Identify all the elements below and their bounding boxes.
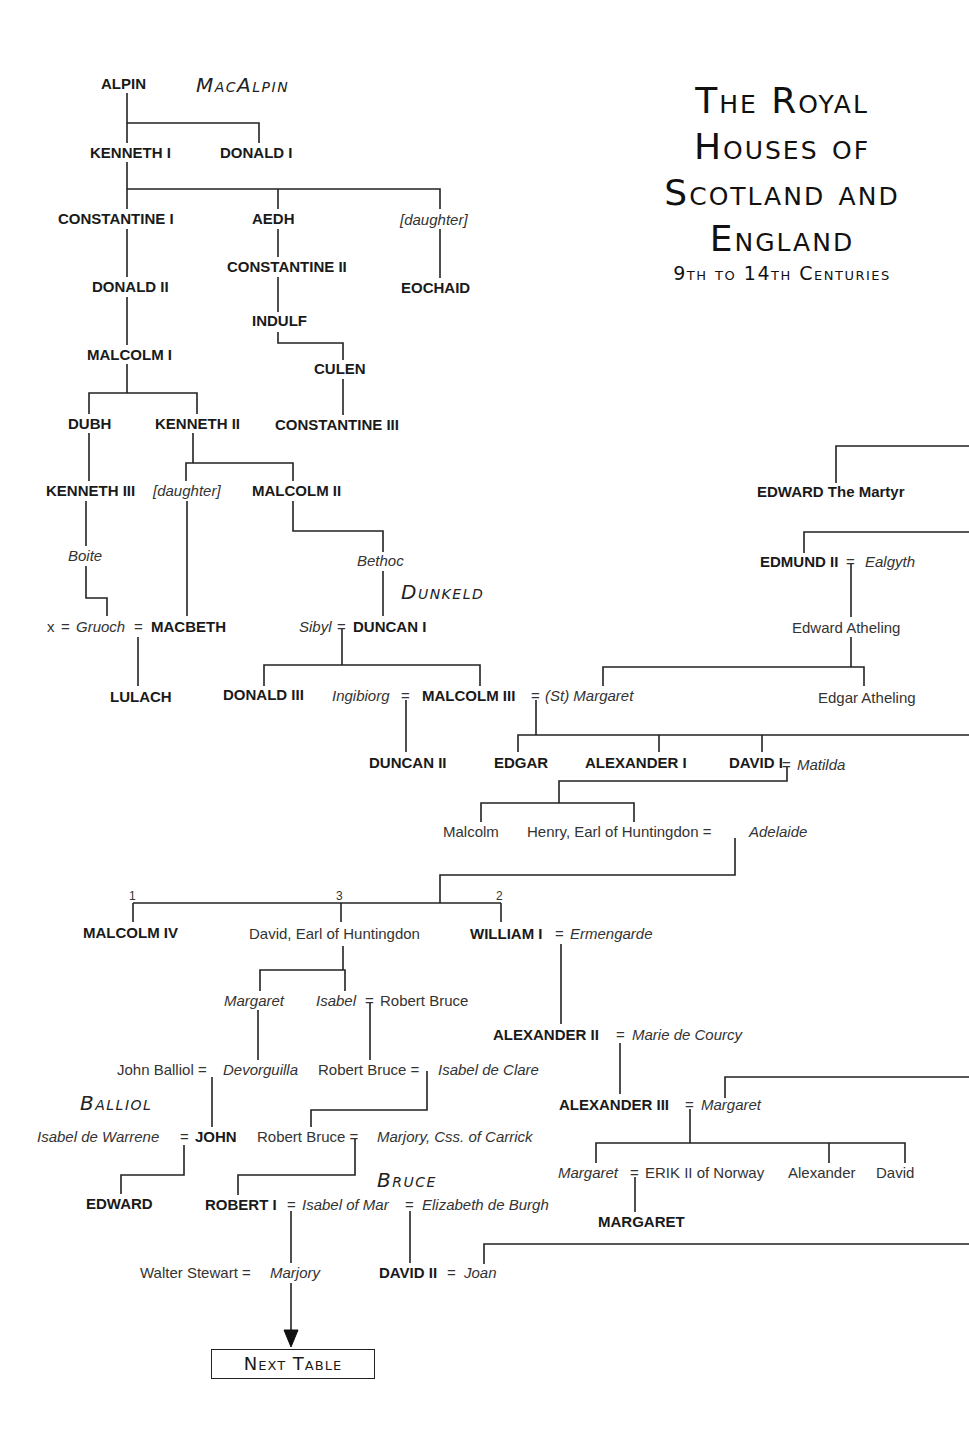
person-donald-ii: DONALD II <box>92 278 169 296</box>
person-edgar: EDGAR <box>494 754 548 772</box>
person-marjory: Marjory <box>270 1264 320 1282</box>
birth-order-2: 2 <box>496 887 503 905</box>
person-constantine-ii: CONSTANTINE II <box>227 258 347 276</box>
person-kenneth-i: KENNETH I <box>90 144 171 162</box>
house-label-macalpin: MacAlpin <box>196 73 289 97</box>
person-robert-bruce-5th: Robert Bruce = <box>318 1061 419 1079</box>
person-edward-balliol: EDWARD <box>86 1195 153 1213</box>
person-ermengarde: Ermengarde <box>570 925 653 943</box>
person-david-earl-of-huntingdon: David, Earl of Huntingdon <box>249 925 420 943</box>
marriage-sign: = <box>287 1196 296 1214</box>
person-ealgyth: Ealgyth <box>865 553 915 571</box>
marriage-sign: = <box>447 1264 456 1282</box>
person-david-i: DAVID I <box>729 754 783 772</box>
birth-order-1: 1 <box>129 887 136 905</box>
person-daughter-kenneth-ii: [daughter] <box>153 482 221 500</box>
house-label-dunkeld: Dunkeld <box>401 580 484 604</box>
person-donald-iii: DONALD III <box>223 686 304 704</box>
person-edgar-atheling: Edgar Atheling <box>818 689 916 707</box>
marriage-sign: = <box>531 687 540 705</box>
person-sibyl: Sibyl <box>299 618 332 636</box>
marriage-sign: = <box>846 553 855 571</box>
person-william-i: WILLIAM I <box>470 925 542 943</box>
marriage-sign: = <box>337 618 346 636</box>
person-alexander-i: ALEXANDER I <box>585 754 687 772</box>
person-john: JOHN <box>195 1128 237 1146</box>
person-culen: CULEN <box>314 360 366 378</box>
marriage-sign: = <box>782 756 791 774</box>
person-david-ii: DAVID II <box>379 1264 437 1282</box>
marriage-sign: = <box>61 618 70 636</box>
person-elizabeth-de-burgh: Elizabeth de Burgh <box>422 1196 549 1214</box>
person-robert-bruce-4th: Robert Bruce <box>380 992 468 1010</box>
title-subtitle: 9th to 14th Centuries <box>612 262 952 284</box>
person-kenneth-ii: KENNETH II <box>155 415 240 433</box>
marriage-sign: = <box>685 1096 694 1114</box>
person-david: David <box>876 1164 914 1182</box>
title-line-4: England <box>612 216 952 262</box>
person-devorguilla: Devorguilla <box>223 1061 298 1079</box>
person-erik-ii-of-norway: ERIK II of Norway <box>645 1164 764 1182</box>
person-alexander: Alexander <box>788 1164 856 1182</box>
house-label-bruce: Bruce <box>377 1168 437 1192</box>
person-gruoch: Gruoch <box>76 618 125 636</box>
person-donald-i: DONALD I <box>220 144 293 162</box>
person-margaret-huntingdon: Margaret <box>224 992 284 1010</box>
person-daughter-alpin: [daughter] <box>400 211 468 229</box>
marriage-sign: = <box>134 618 143 636</box>
title-line-2: Houses of <box>612 124 952 170</box>
marriage-sign: = <box>630 1164 639 1182</box>
person-marie-de-courcy: Marie de Courcy <box>632 1026 742 1044</box>
person-malcolm: Malcolm <box>443 823 499 841</box>
person-malcolm-iv: MALCOLM IV <box>83 924 178 942</box>
person-x: x <box>47 618 55 636</box>
chart-title: The Royal Houses of Scotland and England… <box>612 78 952 284</box>
person-isabel-of-mar: Isabel of Mar <box>302 1196 389 1214</box>
person-duncan-ii: DUNCAN II <box>369 754 447 772</box>
person-bethoc: Bethoc <box>357 552 404 570</box>
person-henry-earl-of-huntingdon: Henry, Earl of Huntingdon = <box>527 823 711 841</box>
marriage-sign: = <box>405 1196 414 1214</box>
person-lulach: LULACH <box>110 688 172 706</box>
person-kenneth-iii: KENNETH III <box>46 482 135 500</box>
person-margaret-alexander-iii-daughter: Margaret <box>558 1164 618 1182</box>
person-edward-atheling: Edward Atheling <box>792 619 900 637</box>
marriage-sign: = <box>616 1026 625 1044</box>
person-aedh: AEDH <box>252 210 295 228</box>
person-malcolm-iii: MALCOLM III <box>422 687 515 705</box>
marriage-sign: = <box>365 992 374 1010</box>
person-isabel-de-clare: Isabel de Clare <box>438 1061 539 1079</box>
house-label-balliol: Balliol <box>80 1091 152 1115</box>
person-alexander-iii: ALEXANDER III <box>559 1096 669 1114</box>
person-adelaide: Adelaide <box>749 823 807 841</box>
person-joan: Joan <box>464 1264 497 1282</box>
person-isabel-de-warrene: Isabel de Warrene <box>37 1128 159 1146</box>
person-malcolm-ii: MALCOLM II <box>252 482 341 500</box>
person-walter-stewart: Walter Stewart = <box>140 1264 251 1282</box>
person-constantine-iii: CONSTANTINE III <box>275 416 399 434</box>
person-robert-i: ROBERT I <box>205 1196 277 1214</box>
title-line-3: Scotland and <box>612 170 952 216</box>
person-macbeth: MACBETH <box>151 618 226 636</box>
person-edward-the-martyr: EDWARD The Martyr <box>757 483 905 501</box>
person-alpin: ALPIN <box>101 75 146 93</box>
person-boite: Boite <box>68 547 102 565</box>
person-matilda: Matilda <box>797 756 845 774</box>
marriage-sign: = <box>180 1128 189 1146</box>
person-constantine-i: CONSTANTINE I <box>58 210 174 228</box>
person-alexander-ii: ALEXANDER II <box>493 1026 599 1044</box>
person-marjory-countess-of-carrick: Marjory, Css. of Carrick <box>377 1128 533 1146</box>
person-malcolm-i: MALCOLM I <box>87 346 172 364</box>
title-line-1: The Royal <box>612 78 952 124</box>
person-margaret-of-england: Margaret <box>701 1096 761 1114</box>
person-john-balliol: John Balliol = <box>117 1061 207 1079</box>
person-isabel: Isabel <box>316 992 356 1010</box>
person-robert-bruce-6th: Robert Bruce = <box>257 1128 358 1146</box>
next-table-button[interactable]: Next Table <box>211 1349 375 1379</box>
person-margaret-maid-of-norway: MARGARET <box>598 1213 685 1231</box>
person-st-margaret: (St) Margaret <box>545 687 633 705</box>
person-indulf: INDULF <box>252 312 307 330</box>
person-eochaid: EOCHAID <box>401 279 470 297</box>
person-duncan-i: DUNCAN I <box>353 618 426 636</box>
person-dubh: DUBH <box>68 415 111 433</box>
